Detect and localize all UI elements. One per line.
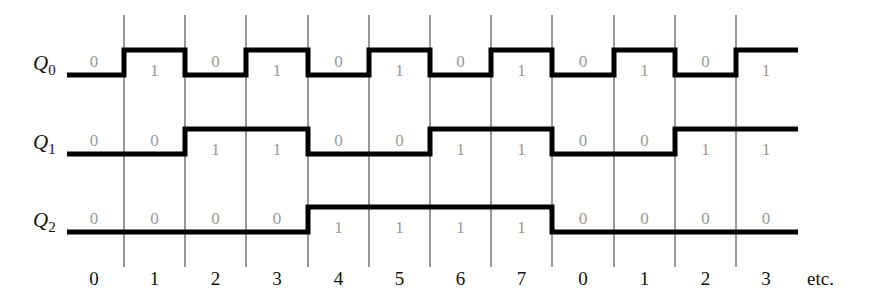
waveforms <box>67 50 798 232</box>
bit-value: 1 <box>517 61 526 80</box>
bit-value: 0 <box>456 52 465 71</box>
signal-label-q1: Q1 <box>33 130 56 157</box>
bit-value: 1 <box>334 218 343 237</box>
clock-label: 4 <box>334 268 344 289</box>
bit-value: 0 <box>579 209 588 228</box>
bit-value: 0 <box>90 52 99 71</box>
bit-value: 1 <box>211 140 220 159</box>
timing-diagram: Q0Q1Q2 010101010101001100110011000011110… <box>0 0 873 305</box>
bit-value: 1 <box>150 61 159 80</box>
clock-label: 2 <box>701 268 711 289</box>
bit-value: 0 <box>150 209 159 228</box>
bit-value: 1 <box>395 218 404 237</box>
clock-label: 1 <box>150 268 160 289</box>
bit-value: 1 <box>273 140 282 159</box>
bit-value: 1 <box>517 140 526 159</box>
bit-value: 0 <box>395 131 404 150</box>
bit-value: 0 <box>701 209 710 228</box>
bit-value: 1 <box>456 218 465 237</box>
bit-value: 0 <box>273 209 282 228</box>
bit-value: 1 <box>762 61 771 80</box>
bit-value: 1 <box>640 61 649 80</box>
clock-label: 3 <box>272 268 282 289</box>
clock-label: 3 <box>761 268 771 289</box>
waveform-q1 <box>67 129 798 154</box>
bit-value: 0 <box>334 131 343 150</box>
clock-label: 0 <box>89 268 99 289</box>
clock-label: 0 <box>578 268 588 289</box>
bit-value: 0 <box>640 209 649 228</box>
bit-value: 0 <box>334 52 343 71</box>
bit-value: 1 <box>762 140 771 159</box>
bit-value: 0 <box>90 131 99 150</box>
bit-value: 0 <box>150 131 159 150</box>
signal-label-q2: Q2 <box>33 208 56 235</box>
etc-label: etc. <box>807 268 834 289</box>
bit-value: 0 <box>640 131 649 150</box>
bit-value: 1 <box>395 61 404 80</box>
clock-label: 6 <box>456 268 466 289</box>
bit-value: 0 <box>211 209 220 228</box>
bit-value: 0 <box>579 52 588 71</box>
waveform-q2 <box>67 207 798 232</box>
bit-value: 0 <box>762 209 771 228</box>
signal-labels: Q0Q1Q2 <box>33 51 56 235</box>
clock-label: 7 <box>517 268 527 289</box>
bit-value: 0 <box>701 52 710 71</box>
bit-value: 0 <box>90 209 99 228</box>
clock-label: 5 <box>395 268 405 289</box>
signal-label-q0: Q0 <box>33 51 56 78</box>
bit-value: 1 <box>701 140 710 159</box>
bit-value: 1 <box>273 61 282 80</box>
clock-label: 1 <box>640 268 650 289</box>
clock-label: 2 <box>211 268 221 289</box>
bit-value: 0 <box>579 131 588 150</box>
waveform-q0 <box>67 50 798 75</box>
bit-value: 1 <box>517 218 526 237</box>
bit-value: 1 <box>456 140 465 159</box>
clock-count-labels: 012345670123etc. <box>89 268 834 289</box>
bit-value: 0 <box>211 52 220 71</box>
